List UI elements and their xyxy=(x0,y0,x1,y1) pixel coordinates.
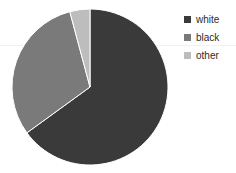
legend-item-black[interactable]: black xyxy=(184,32,236,43)
legend-swatch-icon xyxy=(184,16,191,23)
legend-item-label: other xyxy=(196,50,219,61)
legend-item-other[interactable]: other xyxy=(184,50,236,61)
legend-item-label: white xyxy=(196,14,219,25)
pie-chart-figure: whiteblackother xyxy=(0,0,236,173)
pie-slice-group xyxy=(12,9,168,165)
legend-swatch-icon xyxy=(184,34,191,41)
pie-plot-area xyxy=(0,0,180,173)
legend-swatch-icon xyxy=(184,52,191,59)
legend: whiteblackother xyxy=(184,14,236,61)
legend-item-white[interactable]: white xyxy=(184,14,236,25)
legend-item-label: black xyxy=(196,32,219,43)
pie-svg xyxy=(0,0,180,173)
